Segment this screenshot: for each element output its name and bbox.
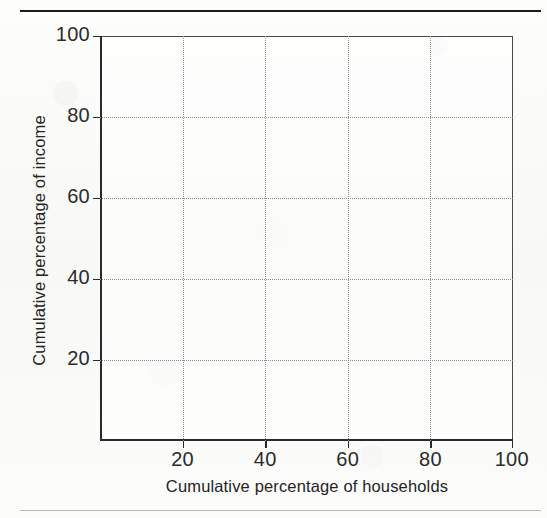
x-tick-label: 80	[395, 448, 465, 471]
plot-frame	[100, 36, 513, 441]
gridline-horizontal	[100, 117, 513, 119]
axis-top-spine	[100, 36, 513, 37]
x-tick-label: 100	[477, 448, 547, 471]
gridline-vertical	[265, 36, 267, 441]
y-tick-label: 40	[38, 266, 90, 289]
y-tick-label-group: 100 80 60 40 20	[38, 36, 90, 441]
y-tick-mark	[93, 198, 100, 199]
x-tick-label: 60	[313, 448, 383, 471]
y-tick-label: 60	[38, 185, 90, 208]
x-tick-label-group: 20 40 60 80 100	[100, 441, 513, 475]
bottom-horizontal-rule	[20, 510, 541, 511]
axis-left-spine	[100, 36, 102, 441]
x-tick-label: 40	[230, 448, 300, 471]
x-axis-title: Cumulative percentage of households	[100, 477, 514, 496]
gridline-horizontal	[100, 360, 513, 362]
y-tick-label: 100	[38, 23, 90, 46]
gridline-vertical	[183, 36, 185, 441]
y-tick-mark	[93, 279, 100, 280]
axis-right-spine	[512, 36, 513, 441]
y-tick-label: 80	[38, 104, 90, 127]
x-tick-label: 20	[148, 448, 218, 471]
gridline-vertical	[430, 36, 432, 441]
gridline-vertical	[348, 36, 350, 441]
top-horizontal-rule	[20, 10, 541, 12]
y-tick-label: 20	[38, 347, 90, 370]
y-tick-mark	[93, 36, 100, 37]
y-tick-mark	[93, 360, 100, 361]
y-tick-mark	[93, 117, 100, 118]
gridline-horizontal	[100, 279, 513, 281]
gridline-horizontal	[100, 198, 513, 200]
plot-area	[102, 38, 512, 440]
